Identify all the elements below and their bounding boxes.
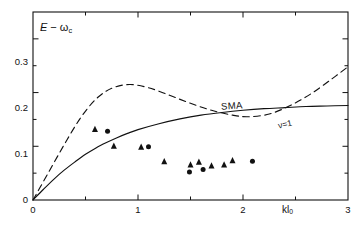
y-axis-omega-subscript: c bbox=[68, 26, 72, 35]
x-tick-label: 0 bbox=[23, 205, 43, 215]
x-axis-title-subscript: 0 bbox=[289, 208, 293, 215]
triangle-data-point bbox=[111, 142, 117, 148]
plot-canvas bbox=[0, 0, 360, 238]
y-tick-label: 0 bbox=[8, 195, 28, 205]
triangle-data-point bbox=[221, 161, 227, 167]
circle-data-point bbox=[146, 144, 151, 149]
sma-curve-label: SMA bbox=[221, 100, 243, 111]
triangle-data-point bbox=[196, 159, 202, 165]
triangle-data-point bbox=[230, 157, 236, 163]
y-tick-label: 0.1 bbox=[2, 149, 28, 159]
sma-curve bbox=[33, 105, 348, 200]
circle-data-point bbox=[250, 159, 255, 164]
circle-data-point bbox=[201, 167, 206, 172]
nu-one-curve bbox=[33, 67, 348, 200]
y-tick-label: 0.2 bbox=[2, 103, 28, 113]
triangle-data-point bbox=[92, 126, 98, 132]
x-tick-label: 2 bbox=[233, 205, 253, 215]
curve-paths bbox=[33, 67, 348, 200]
x-tick-label: 3 bbox=[338, 205, 358, 215]
circle-data-point bbox=[105, 129, 110, 134]
y-tick-label: 0.3 bbox=[2, 57, 28, 67]
y-axis-minus-sign: − bbox=[47, 21, 59, 33]
triangle-data-point bbox=[209, 162, 215, 168]
data-markers bbox=[92, 126, 255, 175]
triangle-data-point bbox=[188, 161, 194, 167]
circle-data-point bbox=[187, 170, 192, 175]
y-axis-title: E−ωc bbox=[40, 22, 72, 34]
figure-panel: 0 0.1 0.2 0.3 0 1 2 3 kl0 E−ωc SMA ν=1 bbox=[0, 0, 360, 238]
x-axis-title: kl0 bbox=[282, 205, 293, 216]
x-tick-label: 1 bbox=[128, 205, 148, 215]
triangle-data-point bbox=[161, 158, 167, 164]
triangle-data-point bbox=[138, 144, 144, 150]
